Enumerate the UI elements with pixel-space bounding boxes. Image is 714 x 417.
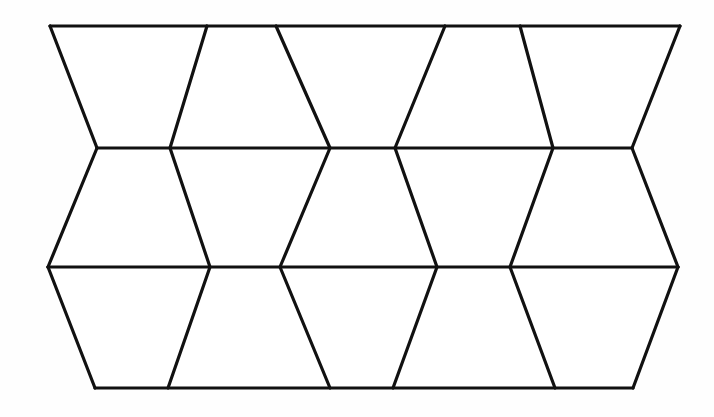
tessellation-figure: [0, 0, 714, 417]
tessellation-canvas: [0, 0, 714, 417]
trapezoid-faces-layer: [48, 26, 680, 388]
